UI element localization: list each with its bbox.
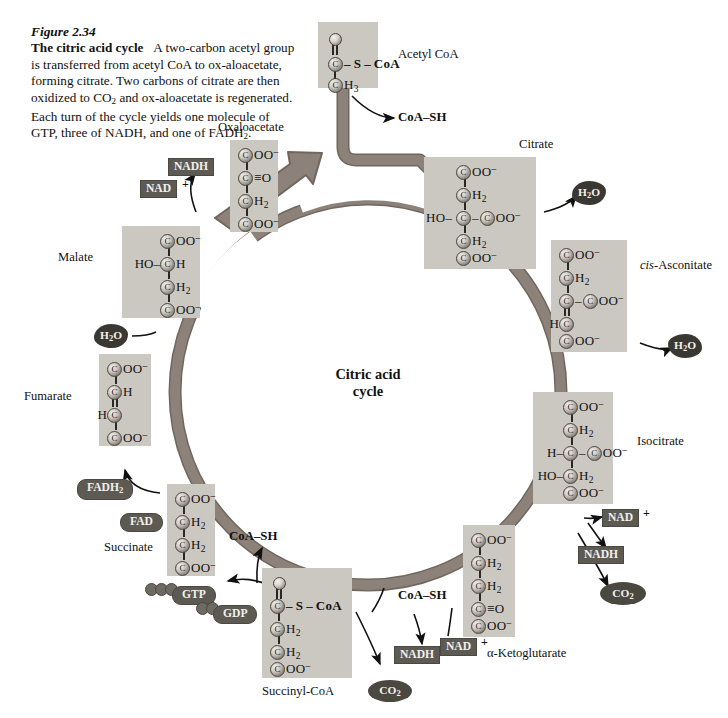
center-title-line2: cycle — [310, 383, 426, 400]
succ-r4: OO– — [191, 560, 215, 576]
molecule-box-fumarate: C OO– C H H C C OO– — [99, 354, 151, 446]
citrate-ho: HO– — [426, 210, 452, 226]
aco-r5: OO– — [575, 333, 599, 349]
atom-carbon: C — [238, 217, 253, 232]
blob-h2o-fumarate: H2O — [94, 324, 128, 348]
fum-r1: OO– — [123, 361, 147, 377]
atom-carbon: C — [175, 561, 190, 576]
chip-nad-malate[interactable]: NAD — [140, 180, 177, 198]
chip-gdp[interactable]: GDP — [213, 605, 257, 624]
succoa-r5: OO– — [286, 661, 310, 677]
molecule-box-succinate: C OO– C H2 C H2 C OO– — [167, 484, 215, 576]
atom-carbon: C — [160, 280, 175, 295]
fadh2-text: FADH2 — [87, 481, 123, 494]
chip-fadh2[interactable]: FADH2 — [77, 479, 133, 500]
iso-r5: OO– — [579, 485, 603, 501]
atom-carbon: C — [471, 619, 486, 634]
atom-carbon: C — [456, 211, 471, 226]
nad-plus-isocitrate: + — [643, 506, 650, 521]
atom-carbon: C — [559, 271, 574, 286]
akg-r3: H2 — [487, 578, 502, 595]
molecule-box-succinyl-coa: C – S – CoA C H2 C H2 C OO– — [262, 568, 352, 678]
atom-carbon: C — [270, 622, 285, 637]
atom-carbon: C — [559, 334, 574, 349]
aconitate-suffix: -Asconitate — [654, 258, 712, 272]
atom-carbon: C — [563, 423, 578, 438]
chip-nad-isocitrate[interactable]: NAD — [602, 509, 639, 527]
blob-co2-ketoglutarate: CO2 — [600, 582, 646, 605]
citrate-branch: – C OO– — [472, 210, 520, 226]
label-coash-succinate: CoA–SH — [229, 529, 277, 544]
mal-r4: OO– — [176, 302, 200, 318]
mal-ho: HO– — [135, 256, 160, 272]
label-coash-acetyl: CoA–SH — [398, 110, 446, 125]
label-acetyl-coa: Acetyl CoA — [398, 47, 459, 62]
atom-carbon: C — [238, 171, 253, 186]
oaa-r4: OO– — [254, 216, 278, 232]
mal-r1: OO– — [176, 233, 200, 249]
mal-r3: H2 — [176, 279, 191, 296]
iso-branch: – C OO– — [579, 445, 627, 461]
atom-carbon: C — [175, 492, 190, 507]
atom-oxygen — [329, 33, 342, 46]
center-title: Citric acid cycle — [310, 366, 426, 400]
cis-prefix: cis — [640, 258, 654, 272]
label-malate: Malate — [58, 250, 93, 265]
atom-carbon: C — [175, 515, 190, 530]
label-fumarate: Fumarate — [24, 389, 72, 404]
iso-r2: H2 — [579, 422, 594, 439]
succoa-r3: H2 — [286, 621, 301, 638]
blob-h2o-citrate: H2O — [572, 181, 606, 205]
atom-carbon: C — [471, 533, 486, 548]
akg-r1: OO– — [487, 532, 511, 548]
fum-r4: OO– — [123, 430, 147, 446]
figure-canvas: Figure 2.34 The citric acid cycle A two-… — [0, 0, 728, 718]
blob-co2-succinyl: CO2 — [368, 680, 412, 702]
molecule-box-acetyl-coa: C – S – CoA C H3 — [318, 22, 378, 88]
atom-carbon: C — [471, 579, 486, 594]
iso-ho: HO– — [538, 468, 563, 484]
atom-carbon: C — [559, 294, 574, 309]
atom-carbon: C — [107, 431, 122, 446]
nad-plus-succinyl: + — [481, 635, 488, 650]
atom-carbon: C — [107, 362, 122, 377]
molecule-box-citrate: C OO– C H2 HO– C – C OO– C H2 C — [424, 157, 536, 269]
chip-nadh-succinyl[interactable]: NADH — [394, 646, 440, 664]
chip-fad[interactable]: FAD — [120, 513, 163, 532]
atom-carbon: C — [175, 538, 190, 553]
aco-h: H — [550, 316, 559, 332]
citrate-r1: OO– — [472, 164, 496, 180]
acetyl-s-coa-text: – S – CoA — [344, 56, 400, 72]
atom-carbon: C — [107, 408, 122, 423]
atom-carbon: C — [563, 446, 578, 461]
aco-r1: OO– — [575, 247, 599, 263]
molecule-box-isocitrate: C OO– C H2 H– C – C OO– HO– C H2 — [533, 392, 613, 504]
akg-r2: H2 — [487, 555, 502, 572]
succ-r1: OO– — [191, 491, 215, 507]
succ-r2: H2 — [191, 514, 206, 531]
label-citrate: Citrate — [519, 137, 553, 152]
citrate-r2: H2 — [472, 187, 487, 204]
atom-oxygen — [273, 577, 286, 590]
aco-r2: H2 — [575, 270, 590, 287]
atom-carbon: C — [563, 400, 578, 415]
atom-carbon: C — [160, 303, 175, 318]
label-isocitrate: Isocitrate — [637, 434, 684, 449]
nad-plus-malate: + — [182, 177, 189, 192]
chip-nad-succinyl[interactable]: NAD — [440, 638, 477, 656]
atom-carbon: C — [328, 78, 343, 93]
atom-carbon: C — [328, 57, 343, 72]
atom-carbon: C — [160, 234, 175, 249]
succ-r3: H2 — [191, 537, 206, 554]
oaa-r3: H2 — [254, 193, 269, 210]
chip-nadh-isocitrate[interactable]: NADH — [578, 546, 624, 564]
citrate-r5: OO– — [472, 250, 496, 266]
atom-carbon: C — [270, 662, 285, 677]
akg-r5: OO– — [487, 618, 511, 634]
oaa-r2: ≡O — [254, 170, 271, 186]
atom-carbon: C — [456, 251, 471, 266]
figure-lead: The citric acid cycle — [31, 40, 143, 55]
chip-nadh-malate[interactable]: NADH — [168, 158, 214, 176]
atom-carbon: C — [559, 248, 574, 263]
atom-carbon: C — [563, 486, 578, 501]
